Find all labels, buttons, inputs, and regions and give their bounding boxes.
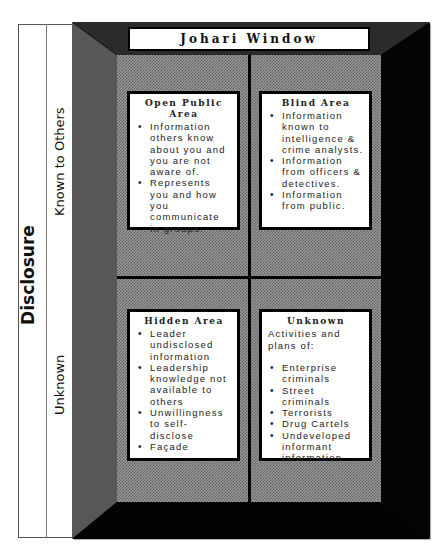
- quadrant-list: Enterprise criminals Street criminals Te…: [268, 362, 364, 464]
- quadrant-list: Leader undisclosed information Leadershi…: [136, 328, 232, 452]
- list-item: Information others know about you and yo…: [136, 121, 232, 177]
- list-item: Façade: [136, 441, 232, 452]
- horizontal-divider: [117, 276, 381, 279]
- list-item: Undeveloped informant information: [268, 430, 364, 464]
- quadrant-title: Unknown: [268, 316, 364, 327]
- quadrant-list: Information others know about you and yo…: [136, 121, 232, 234]
- quadrant-title: Blind Area: [268, 98, 364, 109]
- quadrant-title: Hidden Area: [136, 316, 232, 327]
- list-item: Leadership knowledge not available to ot…: [136, 362, 232, 407]
- quadrant-title: Open Public Area: [136, 98, 232, 120]
- list-item: Information known to intelligence & crim…: [268, 110, 364, 155]
- side-label-divider: [46, 24, 47, 538]
- row-label-unknown: Unknown: [51, 355, 69, 415]
- list-item: Street criminals: [268, 385, 364, 408]
- list-item: Terrorists: [268, 407, 364, 418]
- title-box: Johari Window: [128, 27, 370, 51]
- row-label-known-to-others: Known to Others: [51, 116, 69, 216]
- disclosure-axis-label: Disclosure: [17, 220, 39, 330]
- list-item: Unwillingness to self-disclose: [136, 407, 232, 441]
- quadrant-unknown: Unknown Activities and plans of: Enterpr…: [259, 309, 372, 461]
- list-item: Enterprise criminals: [268, 362, 364, 385]
- list-item: Information from officers & detectives.: [268, 155, 364, 189]
- list-item: Drug Cartels: [268, 418, 364, 429]
- list-item: Represents you and how you communicate i…: [136, 177, 232, 233]
- quadrant-open-public-area: Open Public Area Information others know…: [127, 91, 240, 230]
- quadrant-intro: Activities and plans of:: [268, 328, 364, 351]
- quadrant-blind-area: Blind Area Information known to intellig…: [259, 91, 372, 230]
- quadrant-list: Information known to intelligence & crim…: [268, 110, 364, 212]
- list-item: Leader undisclosed information: [136, 328, 232, 362]
- list-item: Information from public.: [268, 189, 364, 212]
- diagram-title: Johari Window: [180, 32, 318, 46]
- quadrant-hidden-area: Hidden Area Leader undisclosed informati…: [127, 309, 240, 461]
